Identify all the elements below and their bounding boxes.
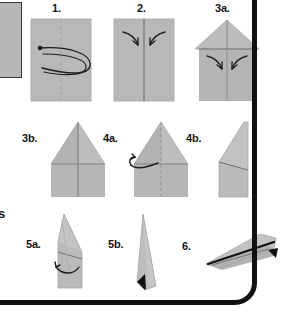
step-2-figure xyxy=(113,18,175,102)
step-2-label: 2. xyxy=(137,2,146,14)
step-5a-figure xyxy=(48,212,90,290)
step-1-figure xyxy=(30,18,92,102)
step-5b-label: 5b. xyxy=(108,238,123,250)
step-6-figure xyxy=(204,228,280,276)
step-4a-figure xyxy=(128,120,194,198)
step-3b-label: 3b. xyxy=(22,132,37,144)
step-3b-figure xyxy=(47,120,109,198)
step-4b-label: 4b. xyxy=(186,132,201,144)
step-4b-figure xyxy=(214,120,254,198)
cut-off-margin-glyph: s xyxy=(0,206,5,221)
step-5a-label: 5a. xyxy=(26,238,41,250)
cut-off-gray-box xyxy=(0,2,22,78)
step-3a-label: 3a. xyxy=(215,2,230,14)
step-4a-label: 4a. xyxy=(103,132,118,144)
step-5b-figure xyxy=(132,212,168,292)
step-6-label: 6. xyxy=(182,240,191,252)
step-1-label: 1. xyxy=(52,2,61,14)
step-3a-figure xyxy=(193,18,261,102)
